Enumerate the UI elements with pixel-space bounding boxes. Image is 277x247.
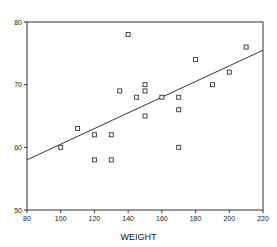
- x-axis-label: WEIGHT: [0, 232, 277, 242]
- data-point: [194, 58, 198, 62]
- data-point: [59, 145, 63, 149]
- data-point: [92, 133, 96, 137]
- scatter-plot: 5060708080100120140160180200220: [0, 0, 277, 247]
- x-tick-label: 220: [257, 215, 269, 222]
- data-point: [177, 95, 181, 99]
- data-point: [227, 70, 231, 74]
- data-point: [76, 127, 80, 131]
- y-tick-label: 70: [14, 81, 22, 88]
- data-point: [143, 89, 147, 93]
- data-point: [177, 108, 181, 112]
- data-point: [135, 95, 139, 99]
- x-tick-label: 80: [23, 215, 31, 222]
- data-point: [143, 114, 147, 118]
- data-point: [118, 89, 122, 93]
- x-tick-label: 140: [122, 215, 134, 222]
- x-tick-label: 100: [55, 215, 67, 222]
- y-tick-label: 80: [14, 19, 22, 26]
- y-tick-label: 50: [14, 207, 22, 214]
- x-tick-label: 120: [89, 215, 101, 222]
- data-point: [109, 158, 113, 162]
- data-point: [210, 83, 214, 87]
- x-tick-label: 200: [223, 215, 235, 222]
- data-point: [109, 133, 113, 137]
- data-point: [92, 158, 96, 162]
- data-point: [143, 83, 147, 87]
- data-point: [244, 45, 248, 49]
- regression-line: [27, 50, 263, 160]
- x-tick-label: 180: [190, 215, 202, 222]
- y-tick-label: 60: [14, 144, 22, 151]
- x-tick-label: 160: [156, 215, 168, 222]
- data-point: [126, 33, 130, 37]
- data-point: [177, 145, 181, 149]
- data-point: [160, 95, 164, 99]
